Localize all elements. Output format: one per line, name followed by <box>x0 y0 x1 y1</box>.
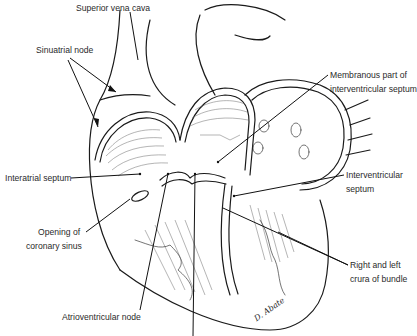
leader-interatrial <box>71 174 140 178</box>
label-interatrial-septum: Interatrial septum <box>5 171 71 185</box>
leader-av-node <box>140 174 168 310</box>
leader-svc <box>130 12 138 60</box>
label-interventricular-septum-line2: septum <box>346 182 374 196</box>
label-interventricular-septum-line1: Interventricular <box>346 168 403 182</box>
leader-sa-2 <box>68 60 98 127</box>
label-sinuatrial-node: Sinuatrial node <box>36 43 93 57</box>
av-region <box>160 172 225 180</box>
right-atrium-outline <box>89 10 120 270</box>
leader-bundle <box>193 174 195 336</box>
left-atrium <box>245 80 351 190</box>
label-crura-line1: Right and left <box>350 258 401 272</box>
leader-sa-1 <box>70 58 116 92</box>
leader-ivs <box>234 175 344 196</box>
svc-outline-right <box>196 15 215 95</box>
label-coronary-sinus-line2: coronary sinus <box>26 239 82 253</box>
label-atrioventricular-node: Atrioventricular node <box>62 310 141 324</box>
leader-crura-2 <box>278 232 348 265</box>
label-membranous-part-line1: Membranous part of <box>330 68 407 82</box>
label-superior-vena-cava: Superior vena cava <box>76 1 150 15</box>
leader-membranous <box>218 75 328 162</box>
label-membranous-part-line2: interventricular septum <box>330 82 417 96</box>
ventricle-outline <box>120 200 328 330</box>
svc-outline-left <box>146 20 175 105</box>
label-crura-line2: crura of bundle <box>350 272 407 286</box>
label-coronary-sinus-line1: Opening of <box>38 225 80 239</box>
leader-coronary-sinus <box>86 199 130 232</box>
